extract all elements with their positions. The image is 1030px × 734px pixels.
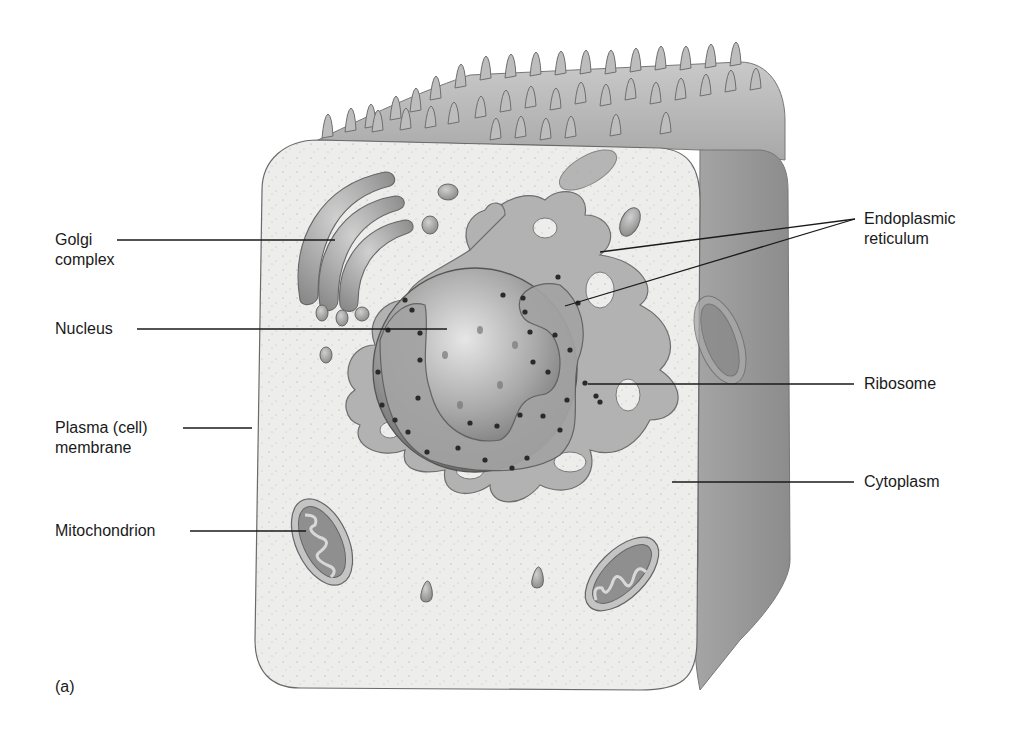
label-plasma-membrane: Plasma (cell) membrane — [55, 418, 147, 458]
label-nucleus: Nucleus — [55, 319, 113, 339]
label-mitochondrion: Mitochondrion — [55, 521, 156, 541]
label-cytoplasm: Cytoplasm — [864, 472, 940, 492]
label-endoplasmic-reticulum: Endoplasmic reticulum — [864, 209, 956, 249]
label-ribosome: Ribosome — [864, 374, 936, 394]
cell-side-surface — [695, 150, 790, 690]
panel-label: (a) — [55, 677, 75, 697]
cell-illustration — [0, 0, 1030, 734]
cell-diagram: Golgi complex Nucleus Plasma (cell) memb… — [0, 0, 1030, 734]
label-golgi-complex: Golgi complex — [55, 230, 115, 270]
